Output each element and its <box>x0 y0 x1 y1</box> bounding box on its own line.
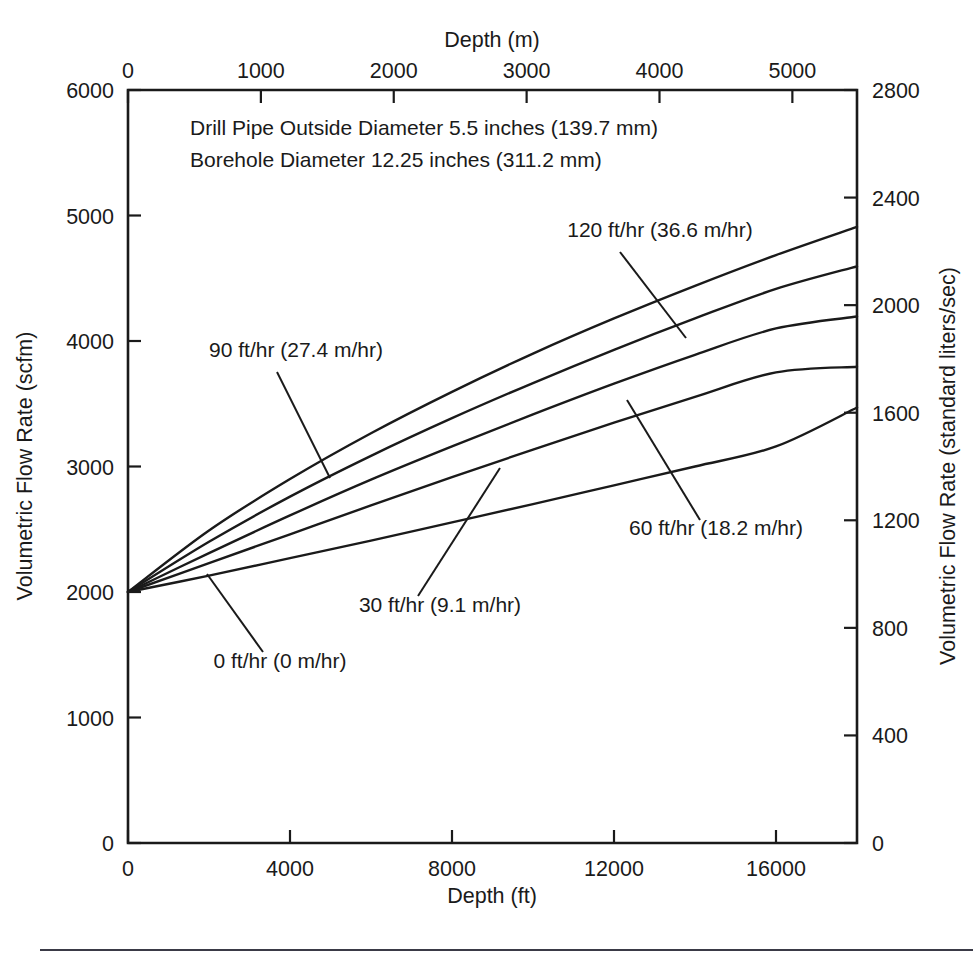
left-axis-ticks <box>128 90 141 843</box>
leader-line <box>627 400 700 520</box>
y2-tick-label: 2400 <box>872 187 920 211</box>
top-axis-ticks <box>128 90 792 103</box>
axis-frame-path <box>128 90 857 843</box>
x2-axis-title: Depth (m) <box>444 28 540 52</box>
x2-tick-label: 3000 <box>503 59 551 83</box>
x-tick-label: 12000 <box>584 857 644 881</box>
y-tick-label: 4000 <box>66 330 114 354</box>
y-tick-label: 6000 <box>66 79 114 103</box>
x-tick-label: 0 <box>122 857 134 881</box>
bottom-axis-ticks <box>128 830 776 843</box>
curve-annotation-label: 60 ft/hr (18.2 m/hr) <box>629 516 803 539</box>
figure-root: 0400080001200016000 01000200030004000500… <box>0 0 979 959</box>
right-axis-tick-labels: 040080012001600200024002800 <box>872 79 920 856</box>
note-borehole-diameter: Borehole Diameter 12.25 inches (311.2 mm… <box>190 148 602 171</box>
x-tick-label: 4000 <box>266 857 314 881</box>
y2-tick-label: 1600 <box>872 402 920 426</box>
bottom-axis-tick-labels: 0400080001200016000 <box>122 857 806 881</box>
y2-tick-label: 1200 <box>872 509 920 533</box>
top-axis-tick-labels: 010002000300040005000 <box>122 59 816 83</box>
flow-rate-depth-chart: 0400080001200016000 01000200030004000500… <box>0 0 979 959</box>
y-tick-label: 2000 <box>66 581 114 605</box>
leader-line <box>418 468 500 596</box>
left-axis-tick-labels: 0100020003000400050006000 <box>66 79 114 856</box>
right-axis-ticks <box>844 90 857 843</box>
x2-tick-label: 0 <box>122 59 134 83</box>
curve-annotation-label: 30 ft/hr (9.1 m/hr) <box>359 593 521 616</box>
curve-0-ft-hr-0-m-hr- <box>128 408 857 592</box>
y2-tick-label: 2000 <box>872 294 920 318</box>
x-tick-label: 8000 <box>428 857 476 881</box>
y2-tick-label: 400 <box>872 724 908 748</box>
curve-annotation-label: 120 ft/hr (36.6 m/hr) <box>567 218 753 241</box>
plot-frame <box>128 90 857 843</box>
y-tick-label: 1000 <box>66 707 114 731</box>
leader-line <box>207 574 263 652</box>
note-drill-pipe-diameter: Drill Pipe Outside Diameter 5.5 inches (… <box>190 116 658 139</box>
annotation-labels: 120 ft/hr (36.6 m/hr)90 ft/hr (27.4 m/hr… <box>209 218 803 672</box>
y-axis-title: Volumetric Flow Rate (scfm) <box>13 332 37 601</box>
y2-tick-label: 800 <box>872 617 908 641</box>
x-tick-label: 16000 <box>746 857 806 881</box>
curve-annotation-label: 0 ft/hr (0 m/hr) <box>213 649 346 672</box>
annotation-leaders <box>207 252 700 652</box>
footer-rule <box>40 949 973 951</box>
x2-tick-label: 1000 <box>237 59 285 83</box>
y2-tick-label: 0 <box>872 832 884 856</box>
curve-annotation-label: 90 ft/hr (27.4 m/hr) <box>209 338 383 361</box>
x2-tick-label: 4000 <box>636 59 684 83</box>
y2-axis-title: Volumetric Flow Rate (standard liters/se… <box>936 267 960 665</box>
y-tick-label: 0 <box>102 832 114 856</box>
y-tick-label: 5000 <box>66 205 114 229</box>
y-tick-label: 3000 <box>66 456 114 480</box>
leader-line <box>620 252 686 338</box>
leader-line <box>277 372 330 478</box>
x2-tick-label: 5000 <box>768 59 816 83</box>
x2-tick-label: 2000 <box>370 59 418 83</box>
y2-tick-label: 2800 <box>872 79 920 103</box>
x-axis-title: Depth (ft) <box>447 884 537 908</box>
